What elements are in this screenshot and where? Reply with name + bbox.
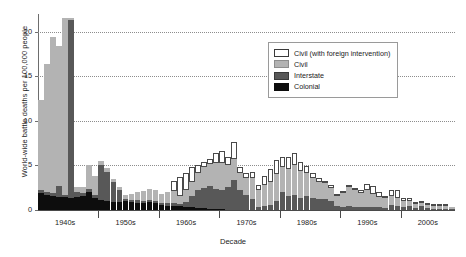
x-tick-mark (401, 211, 402, 218)
bar-segment-colonial (86, 192, 92, 210)
bar-1967 (201, 162, 207, 210)
bar-segment-civil (310, 178, 316, 198)
bar-segment-civil (225, 165, 231, 187)
bar-1944 (62, 18, 68, 210)
bar-segment-civil (38, 100, 44, 190)
bar-segment-civil (280, 167, 286, 192)
bar-1972 (231, 142, 237, 210)
bar-segment-colonial (147, 202, 153, 210)
bar-segment-civil (358, 193, 364, 207)
bar-segment-interstate (68, 20, 74, 197)
bar-segment-civilfi (298, 162, 304, 171)
bar-segment-interstate (431, 209, 437, 210)
bar-2007 (443, 204, 449, 210)
bar-1968 (207, 159, 213, 210)
legend-swatch-colonial (274, 83, 289, 91)
x-tick-label-1960s: 1960s (164, 219, 208, 226)
bar-segment-civilfi (225, 157, 231, 164)
bar-segment-civilfi (370, 186, 376, 194)
bar-1980 (280, 157, 286, 210)
bar-1961 (165, 192, 171, 210)
bar-segment-civil (92, 176, 98, 195)
bar-1974 (243, 173, 249, 210)
bar-segment-interstate (449, 209, 455, 210)
bar-2003 (419, 201, 425, 210)
bar-segment-colonial (80, 196, 86, 210)
bar-segment-civil (316, 182, 322, 200)
bar-segment-civil (165, 192, 171, 203)
bar-segment-colonial (195, 208, 201, 210)
bar-segment-civil (147, 189, 153, 201)
bar-1960 (159, 194, 165, 210)
bar-1992 (352, 188, 358, 210)
x-tick-label-1980s: 1980s (285, 219, 329, 226)
bar-segment-interstate (310, 198, 316, 210)
bar-1948 (86, 165, 92, 210)
bar-segment-interstate (195, 190, 201, 208)
bar-segment-interstate (111, 182, 117, 202)
bar-segment-interstate (225, 187, 231, 210)
bar-segment-colonial (92, 198, 98, 210)
bar-segment-colonial (123, 201, 129, 210)
bar-segment-civil (201, 167, 207, 187)
bar-segment-colonial (111, 202, 117, 210)
bar-segment-civilfi (195, 165, 201, 173)
bar-segment-civil (207, 164, 213, 186)
bar-1999 (395, 190, 401, 210)
bar-1987 (322, 181, 328, 210)
legend-label: Colonial (294, 82, 320, 91)
bar-1962 (171, 181, 177, 210)
x-tick-label-1970s: 1970s (225, 219, 269, 226)
legend-item-civil: Civil (274, 59, 390, 69)
bar-2000 (401, 198, 407, 210)
bar-1979 (274, 160, 280, 210)
bar-1946 (74, 187, 80, 210)
bar-segment-civilfi (219, 151, 225, 163)
bar-1959 (153, 190, 159, 210)
x-tick-mark (340, 211, 341, 218)
bar-segment-civilfi (171, 181, 177, 192)
bar-segment-civilfi (183, 173, 189, 190)
bar-segment-colonial (213, 209, 219, 210)
y-tick-mark (35, 121, 38, 122)
battle-deaths-chart: World-wide battle deaths per 100,000 peo… (0, 0, 466, 257)
bar-segment-colonial (68, 198, 74, 210)
y-tick-label: 10 (8, 117, 32, 124)
bar-1986 (316, 178, 322, 210)
bar-1989 (334, 194, 340, 210)
bar-1954 (123, 195, 129, 210)
bar-segment-interstate (407, 206, 413, 210)
bar-segment-colonial (171, 206, 177, 210)
bar-segment-civil (334, 196, 340, 207)
bar-segment-civil (219, 163, 225, 190)
bar-segment-interstate (328, 201, 334, 210)
bar-1978 (268, 169, 274, 210)
bar-segment-civil (135, 192, 141, 200)
x-tick-mark (98, 211, 99, 218)
bar-1949 (92, 176, 98, 210)
legend-label: Civil (with foreign intervention) (294, 49, 390, 58)
bar-1965 (189, 167, 195, 210)
bar-segment-civil (231, 159, 237, 179)
bar-segment-civil (376, 197, 382, 208)
bar-1995 (370, 186, 376, 210)
bar-segment-civil (298, 171, 304, 198)
bar-segment-civil (286, 169, 292, 196)
bar-segment-interstate (189, 196, 195, 208)
bar-segment-colonial (177, 206, 183, 210)
bar-segment-interstate (237, 190, 243, 210)
bar-segment-interstate (298, 198, 304, 210)
bar-segment-civilfi (280, 157, 286, 168)
bar-segment-colonial (117, 202, 123, 210)
bar-segment-interstate (56, 186, 62, 197)
bar-segment-interstate (201, 188, 207, 208)
bar-1985 (310, 173, 316, 210)
bar-segment-colonial (50, 196, 56, 210)
bar-segment-colonial (62, 197, 68, 210)
bar-segment-civil (274, 174, 280, 201)
bar-segment-civil (183, 190, 189, 202)
bar-2004 (425, 203, 431, 210)
bar-segment-interstate (304, 196, 310, 210)
bar-1969 (213, 153, 219, 210)
bar-segment-colonial (56, 197, 62, 210)
